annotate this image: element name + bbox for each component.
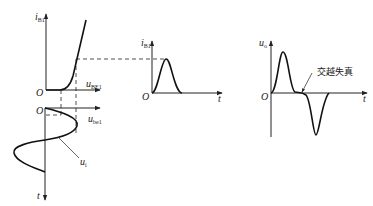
base-current-graph: iB1 O t [141,37,222,104]
ib1-pulse-curve [152,59,182,93]
origin-label: O [142,91,149,102]
ui-sine-curve [14,108,77,172]
ube1-small-axis-label: ube1 [88,113,102,125]
ui-leader-line [58,137,79,158]
crossover-distortion-diagram: iB1 uBE1 O O ube1 ui t iB1 O t 交越失真 uo [0,0,373,206]
t-axis-label: t [363,93,366,104]
ib1-axis-label: iB1 [141,37,151,49]
output-graph: 交越失真 uo O t [259,37,367,137]
origin-label: O [36,105,43,116]
crossover-distortion-label: 交越失真 [317,66,353,77]
origin-label: O [36,87,43,98]
distortion-pointer-arrow [302,73,312,92]
input-characteristic-curve [46,20,86,90]
origin-label: O [261,91,268,102]
t-axis-label: t [37,190,40,201]
ib1-axis-label: iB1 [35,11,45,23]
input-characteristic-graph: iB1 uBE1 O [35,11,102,98]
uo-axis-label: uo [259,37,267,49]
ube1-axis-label: uBE1 [86,78,102,90]
t-axis-label: t [218,93,221,104]
input-waveform-graph: O ube1 ui t [14,105,102,201]
ui-label: ui [80,156,87,168]
